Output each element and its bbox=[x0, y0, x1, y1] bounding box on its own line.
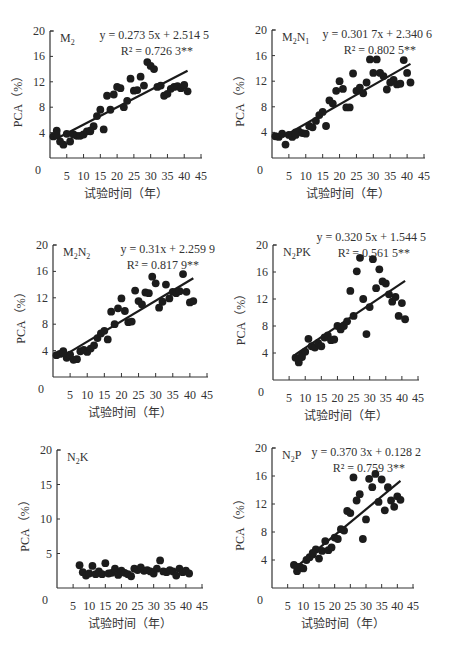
data-point bbox=[334, 535, 342, 543]
data-point bbox=[369, 255, 377, 263]
x-tick-label: 10 bbox=[81, 388, 93, 402]
data-point bbox=[305, 335, 313, 343]
data-point bbox=[396, 80, 404, 88]
data-point bbox=[121, 307, 129, 315]
data-point bbox=[403, 69, 411, 77]
data-point bbox=[127, 75, 135, 83]
x-tick-label: 30 bbox=[148, 599, 160, 613]
data-point bbox=[123, 97, 131, 105]
y-axis-label: PCA（%） bbox=[14, 286, 28, 343]
data-point bbox=[152, 279, 160, 287]
y-axis-label: PCA（%） bbox=[18, 494, 32, 551]
data-point bbox=[319, 108, 327, 116]
y-tick-label: 12 bbox=[255, 74, 267, 88]
data-point bbox=[118, 295, 126, 303]
y-tick-label: 12 bbox=[33, 75, 45, 89]
y-tick-label: 8 bbox=[262, 319, 268, 333]
x-tick-label: 15 bbox=[99, 599, 111, 613]
data-point bbox=[336, 77, 344, 85]
y-tick-label: 4 bbox=[42, 344, 48, 358]
panel-label: N2PK bbox=[283, 245, 311, 261]
y-tick-label: 4 bbox=[261, 553, 267, 567]
data-point bbox=[328, 544, 336, 552]
data-point bbox=[76, 561, 84, 569]
y-tick-label: 16 bbox=[256, 265, 268, 279]
data-point bbox=[114, 304, 122, 312]
x-axis-label: 试验时间（年） bbox=[88, 616, 172, 631]
x-tick-label: 10 bbox=[300, 169, 312, 183]
x-axis-label: 试验时间（年） bbox=[306, 186, 390, 201]
x-tick-label: 45 bbox=[196, 599, 208, 613]
x-tick-label: 5 bbox=[67, 388, 73, 402]
data-point bbox=[383, 86, 391, 94]
data-point bbox=[100, 126, 108, 134]
x-tick-label: 10 bbox=[299, 391, 311, 405]
data-point bbox=[378, 476, 386, 484]
data-point bbox=[346, 287, 354, 295]
x-tick-label: 30 bbox=[150, 388, 162, 402]
data-point bbox=[110, 91, 118, 99]
x-tick-label: 40 bbox=[401, 169, 413, 183]
chart-panel-n2p: 48121620051015202530354045试验时间（年）PCA（%）N… bbox=[233, 441, 421, 631]
data-point bbox=[107, 308, 115, 316]
x-tick-label: 35 bbox=[161, 169, 173, 183]
data-point bbox=[128, 318, 136, 326]
data-point bbox=[150, 65, 158, 73]
y-tick-label: 4 bbox=[262, 346, 268, 360]
x-tick-label: 10 bbox=[297, 599, 309, 613]
chart-panel-m2n2: 48121620051015202530354045试验时间（年）PCA（%）M… bbox=[14, 238, 215, 420]
data-point bbox=[375, 498, 383, 506]
panel-label: N2K bbox=[67, 450, 89, 466]
y-tick-label: 4 bbox=[39, 126, 45, 140]
x-tick-label: 30 bbox=[145, 169, 157, 183]
x-tick-label: 30 bbox=[360, 599, 372, 613]
data-point bbox=[372, 470, 380, 478]
data-point bbox=[165, 295, 173, 303]
data-point bbox=[375, 265, 383, 273]
x-tick-label: 35 bbox=[376, 599, 388, 613]
x-tick-label: 25 bbox=[128, 169, 140, 183]
y-tick-label: 10 bbox=[40, 512, 52, 526]
y-tick-label: 20 bbox=[256, 238, 268, 252]
r-squared: R² = 0.759 3** bbox=[333, 461, 405, 475]
data-point bbox=[339, 85, 347, 93]
data-point bbox=[397, 496, 405, 504]
regression-equation: y = 0.31x + 2.259 9 bbox=[120, 242, 215, 256]
y-tick-label: 15 bbox=[40, 478, 52, 492]
regression-equation: y = 0.301 7x + 2.340 6 bbox=[322, 27, 432, 41]
x-tick-label: 0 bbox=[257, 593, 263, 607]
x-tick-label: 20 bbox=[115, 599, 127, 613]
chart-panel-m2n1: 48121620051015202530354045试验时间（年）PCA（%）M… bbox=[233, 23, 432, 201]
y-tick-label: 8 bbox=[261, 525, 267, 539]
x-tick-label: 15 bbox=[98, 388, 110, 402]
data-point bbox=[189, 297, 197, 305]
data-point bbox=[372, 284, 380, 292]
panel-label: N2P bbox=[282, 448, 302, 464]
x-tick-label: 45 bbox=[418, 169, 430, 183]
y-tick-label: 8 bbox=[42, 317, 48, 331]
y-axis-label: PCA（%） bbox=[233, 493, 247, 550]
y-tick-label: 20 bbox=[40, 443, 52, 457]
x-tick-label: 20 bbox=[329, 599, 341, 613]
figure: 48121620051015202530354045试验时间（年）PCA（%）M… bbox=[0, 0, 451, 645]
regression-equation: y = 0.370 3x + 0.128 2 bbox=[311, 445, 421, 459]
data-point bbox=[179, 270, 187, 278]
x-tick-label: 5 bbox=[70, 599, 76, 613]
x-tick-label: 5 bbox=[64, 169, 70, 183]
data-point bbox=[101, 559, 109, 567]
data-point bbox=[349, 70, 357, 78]
x-tick-label: 25 bbox=[350, 169, 362, 183]
data-point bbox=[131, 287, 139, 295]
x-axis-label: 试验时间（年） bbox=[88, 405, 172, 420]
y-tick-label: 16 bbox=[33, 49, 45, 63]
data-point bbox=[390, 503, 398, 511]
data-point bbox=[145, 289, 153, 297]
y-tick-label: 12 bbox=[36, 291, 48, 305]
x-tick-label: 15 bbox=[313, 599, 325, 613]
x-tick-label: 20 bbox=[331, 391, 343, 405]
data-point bbox=[111, 320, 119, 328]
data-point bbox=[382, 280, 390, 288]
data-point bbox=[140, 82, 148, 90]
x-tick-label: 25 bbox=[132, 599, 144, 613]
y-tick-label: 12 bbox=[255, 497, 267, 511]
